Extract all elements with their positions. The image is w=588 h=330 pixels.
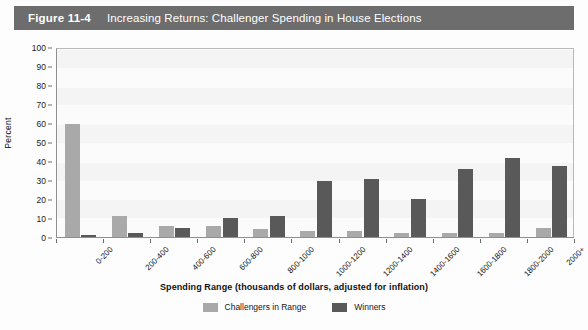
bar-challengers <box>394 233 409 237</box>
bar-group <box>292 49 339 237</box>
bar-group <box>481 49 528 237</box>
x-axis-tick-mark <box>433 239 434 243</box>
y-axis-tick-label: 10 <box>37 214 46 224</box>
bar-group <box>528 49 574 237</box>
figure-title: Increasing Returns: Challenger Spending … <box>107 12 422 24</box>
x-axis-tick-mark <box>244 239 245 243</box>
bar-challengers <box>253 229 268 237</box>
x-axis-tick-label: 1000-1200 <box>334 245 367 278</box>
bar-winners <box>223 218 238 237</box>
bar-group <box>198 49 245 237</box>
x-axis-tick-mark <box>574 239 575 243</box>
bar-winners <box>411 199 426 237</box>
y-axis-tick-label: 90 <box>37 62 46 72</box>
bar-group <box>387 49 434 237</box>
y-axis-tick-mark <box>48 143 52 144</box>
bar-challengers <box>206 226 221 237</box>
y-axis-tick-mark <box>48 238 52 239</box>
legend-item: Challengers in Range <box>203 302 307 312</box>
bar-winners <box>552 166 567 237</box>
x-axis-tick-label: 1200-1400 <box>381 245 414 278</box>
figure-header: Figure 11-4 Increasing Returns: Challeng… <box>14 6 574 30</box>
bar-winners <box>364 179 379 237</box>
y-axis-tick-label: 60 <box>37 119 46 129</box>
x-axis-tick-mark <box>197 239 198 243</box>
y-axis-tick-label: 50 <box>37 138 46 148</box>
y-axis-tick-label: 20 <box>37 195 46 205</box>
bar-challengers <box>159 226 174 237</box>
bar-group <box>151 49 198 237</box>
bar-winners <box>81 235 96 237</box>
bar-winners <box>458 169 473 237</box>
y-axis-tick-label: 0 <box>41 233 46 243</box>
y-axis-tick-mark <box>48 105 52 106</box>
bar-winners <box>175 228 190 237</box>
x-axis-tick-mark <box>527 239 528 243</box>
chart-legend: Challengers in RangeWinners <box>0 302 588 312</box>
x-axis-tick-label: 1400-1600 <box>428 245 461 278</box>
x-axis-tick-label: 0-200 <box>94 245 115 266</box>
x-axis-tick-label: 400-600 <box>190 245 217 272</box>
bar-group <box>340 49 387 237</box>
x-axis-tick-label: 800-1000 <box>286 245 316 275</box>
y-axis-tick-label: 40 <box>37 157 46 167</box>
x-axis-tick-mark <box>291 239 292 243</box>
x-axis-tick-mark <box>56 239 57 243</box>
legend-label: Winners <box>354 302 385 312</box>
y-axis-tick-mark <box>48 200 52 201</box>
figure-page: Figure 11-4 Increasing Returns: Challeng… <box>0 0 588 330</box>
legend-item: Winners <box>332 302 385 312</box>
y-axis-tick-mark <box>48 219 52 220</box>
bar-challengers <box>112 216 127 237</box>
bar-challengers <box>489 233 504 237</box>
bar-group <box>104 49 151 237</box>
bar-winners <box>317 181 332 237</box>
y-axis-tick-mark <box>48 124 52 125</box>
y-axis-tick-label: 70 <box>37 100 46 110</box>
legend-label: Challengers in Range <box>225 302 307 312</box>
bar-winners <box>270 216 285 237</box>
y-axis-tick-mark <box>48 48 52 49</box>
y-axis-tick-mark <box>48 181 52 182</box>
x-axis-tick-label: 1800-2000 <box>523 245 556 278</box>
y-axis-tick-label: 80 <box>37 81 46 91</box>
legend-swatch-winners <box>332 303 347 312</box>
bar-group <box>434 49 481 237</box>
x-axis-tick-mark <box>480 239 481 243</box>
y-axis-tick-mark <box>48 162 52 163</box>
x-axis-tick-mark <box>386 239 387 243</box>
bar-winners <box>128 233 143 237</box>
bar-challengers <box>65 124 80 237</box>
bar-challengers <box>442 233 457 237</box>
y-axis-tick-mark <box>48 86 52 87</box>
x-axis-tick-mark <box>150 239 151 243</box>
bar-challengers <box>300 231 315 237</box>
x-axis-tick-label: 2000+ <box>565 245 587 267</box>
y-axis-tick-label: 30 <box>37 176 46 186</box>
chart-area: Percent 0102030405060708090100 0-200200-… <box>0 34 588 330</box>
bar-winners <box>505 158 520 237</box>
y-axis-tick-mark <box>48 67 52 68</box>
bar-challengers <box>347 231 362 237</box>
x-axis-tick-label: 200-400 <box>143 245 170 272</box>
x-axis-tick-label: 1600-1800 <box>475 245 508 278</box>
y-axis-labels: 0102030405060708090100 <box>18 48 52 238</box>
figure-number: Figure 11-4 <box>28 12 91 24</box>
plot-wrapper <box>56 48 574 238</box>
x-axis-title: Spending Range (thousands of dollars, ad… <box>0 282 588 292</box>
y-axis-title: Percent <box>3 117 13 148</box>
x-axis-tick-mark <box>339 239 340 243</box>
x-axis-tick-mark <box>103 239 104 243</box>
x-axis-tick-label: 600-800 <box>237 245 264 272</box>
bar-group <box>57 49 104 237</box>
plot-area <box>56 48 574 238</box>
y-axis-tick-label: 100 <box>32 43 46 53</box>
bar-challengers <box>536 228 551 237</box>
bar-group <box>245 49 292 237</box>
legend-swatch-challengers <box>203 303 218 312</box>
